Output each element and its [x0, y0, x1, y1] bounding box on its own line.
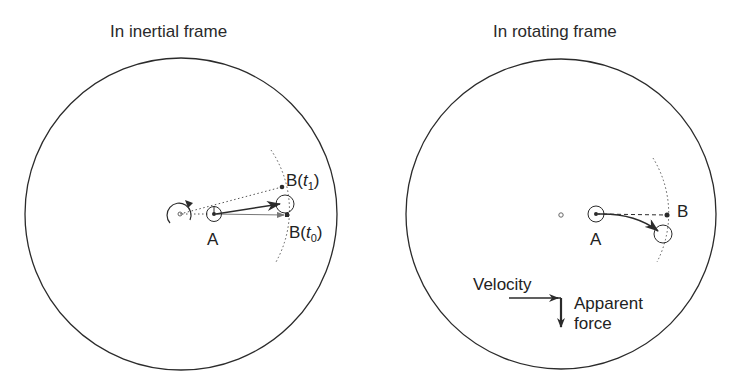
- radial-line-b-t1: [180, 187, 282, 214]
- label-b-rotating: B: [677, 202, 688, 221]
- rotation-center-rotating: [559, 213, 563, 217]
- b-orbit-arc-rotating: [653, 158, 669, 262]
- person-b-point: [665, 213, 670, 218]
- coriolis-diagram: A B(t1) B(t0) A B Velocity Apparent: [0, 0, 735, 383]
- b-t1-point: [280, 185, 285, 190]
- velocity-label: Velocity: [473, 275, 532, 294]
- ball-trajectory-arrow: [216, 204, 280, 214]
- inertial-frame-panel: A B(t1) B(t0): [25, 58, 337, 370]
- curved-ball-trajectory: [598, 214, 658, 231]
- apparent-label: Apparent: [574, 294, 643, 313]
- b-orbit-arc-inertial: [271, 150, 289, 262]
- b-t0-point: [285, 213, 289, 217]
- force-label: force: [574, 314, 612, 333]
- label-b-t1: B(t1): [286, 171, 320, 192]
- person-a-dot-rotating: [594, 212, 598, 216]
- aim-line-a-to-b-t0: [214, 214, 284, 215]
- rotation-arrowhead: [185, 200, 193, 208]
- label-a-inertial: A: [207, 230, 219, 249]
- rotating-frame-panel: A B Velocity Apparent force: [406, 59, 716, 369]
- label-a-rotating: A: [590, 230, 602, 249]
- ball-landing-rotating: [654, 225, 672, 243]
- label-b-t0: B(t0): [289, 223, 323, 244]
